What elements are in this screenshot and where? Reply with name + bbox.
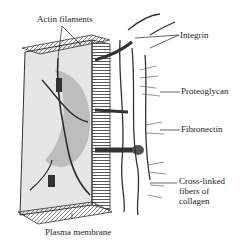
actin-bundle (48, 175, 55, 187)
label-plasma-membrane: Plasma membrane (45, 228, 111, 238)
label-fibronectin: Fibronectin (181, 125, 223, 135)
leader-integrin (135, 35, 179, 48)
integrin (95, 110, 128, 112)
label-actin-filaments: Actin filaments (37, 15, 93, 25)
plasma-membrane-bilayer (92, 40, 110, 210)
label-integrin: Integrin (180, 31, 209, 41)
label-collagen-line3: collagen (179, 197, 210, 207)
actin-bundle (56, 78, 62, 92)
proteoglycan-bristles (140, 66, 166, 198)
label-proteoglycan: Proteoglycan (181, 87, 229, 97)
ecm-diagram: Actin filaments Integrin Proteoglycan Fi… (0, 0, 242, 246)
integrin-head (132, 145, 144, 155)
